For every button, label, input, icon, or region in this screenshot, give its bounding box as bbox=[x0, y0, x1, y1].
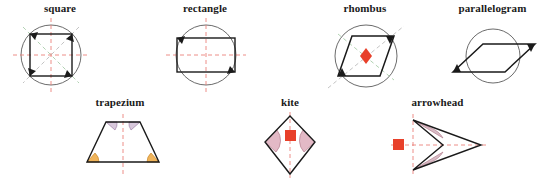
center-marker-square-icon bbox=[285, 130, 296, 141]
angle-arc-top-left bbox=[106, 122, 117, 130]
figure-diagram-kite bbox=[257, 112, 323, 178]
figure-diagram-square bbox=[5, 18, 97, 92]
parallelogram-outline bbox=[453, 44, 535, 72]
rotation-arrow-top-left-icon bbox=[30, 32, 38, 40]
center-marker-diamond-icon bbox=[360, 48, 372, 64]
figure-arrowhead: arrowhead bbox=[375, 92, 500, 183]
center-marker-square-icon bbox=[393, 139, 404, 150]
figure-label-square: square bbox=[0, 2, 120, 15]
figure-label-kite: kite bbox=[235, 96, 345, 109]
figure-rhombus: rhombus bbox=[300, 0, 430, 92]
figure-kite: kite bbox=[235, 92, 345, 183]
figure-square: square bbox=[0, 0, 120, 92]
circumcircle bbox=[466, 29, 520, 83]
figure-rectangle: rectangle bbox=[140, 0, 270, 92]
figure-diagram-rectangle bbox=[158, 18, 254, 92]
figure-label-arrowhead: arrowhead bbox=[375, 96, 500, 109]
rotation-arrow-bottom-left-icon bbox=[28, 68, 36, 76]
figure-label-rhombus: rhombus bbox=[300, 2, 430, 15]
figure-diagram-rhombus bbox=[320, 18, 412, 92]
figure-label-trapezium: trapezium bbox=[55, 96, 185, 109]
figure-label-parallelogram: parallelogram bbox=[435, 2, 550, 15]
figure-trapezium: trapezium bbox=[55, 92, 185, 183]
rotation-arrow-bottom-right-icon bbox=[64, 70, 72, 78]
figure-diagram-parallelogram bbox=[443, 18, 543, 92]
figure-parallelogram: parallelogram bbox=[435, 0, 550, 92]
rotation-arrow-top-right-icon bbox=[66, 34, 74, 42]
figure-label-rectangle: rectangle bbox=[140, 2, 270, 15]
figure-diagram-trapezium bbox=[77, 114, 169, 174]
angle-arc-top-right bbox=[129, 122, 140, 130]
figure-diagram-arrowhead bbox=[387, 114, 491, 176]
